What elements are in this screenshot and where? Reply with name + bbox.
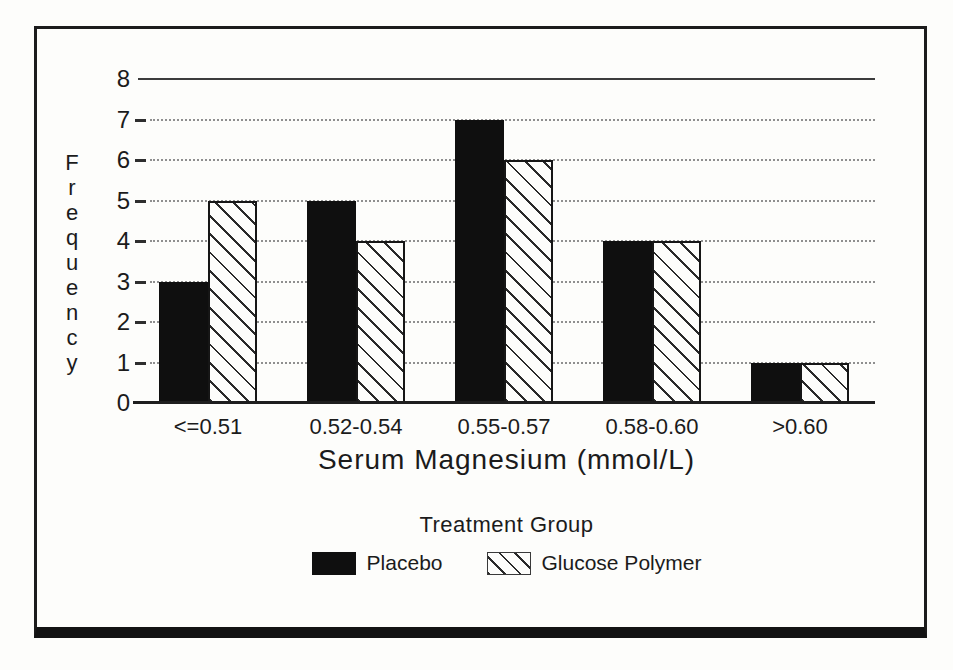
legend-swatch-hatched <box>487 552 531 575</box>
x-tick-label-2: 0.55-0.57 <box>458 414 551 440</box>
plot-area <box>138 79 875 403</box>
x-axis-title: Serum Magnesium (mmol/L) <box>138 444 875 476</box>
y-tick-label-4: 4 <box>96 227 130 255</box>
x-tick-label-3: 0.58-0.60 <box>606 414 699 440</box>
gridline-8 <box>138 78 875 80</box>
bar-placebo-4 <box>751 363 800 404</box>
legend-label: Glucose Polymer <box>542 551 702 575</box>
y-axis-title: F r e q u e n c y <box>60 150 84 375</box>
y-tick-label-8: 8 <box>96 65 130 93</box>
y-tick-3 <box>135 281 146 284</box>
y-tick-2 <box>135 321 146 324</box>
bar-glucose-polymer-2 <box>504 160 553 403</box>
legend: PlaceboGlucose Polymer <box>138 551 875 575</box>
y-tick-5 <box>135 200 146 203</box>
y-tick-7 <box>135 119 146 122</box>
legend-label: Placebo <box>367 551 443 575</box>
bar-glucose-polymer-1 <box>356 241 405 403</box>
bar-glucose-polymer-4 <box>800 363 849 404</box>
bar-placebo-3 <box>603 241 652 403</box>
y-tick-1 <box>135 362 146 365</box>
bar-glucose-polymer-0 <box>208 201 257 404</box>
gridline-7 <box>150 119 875 121</box>
x-tick-label-4: >0.60 <box>772 414 828 440</box>
legend-swatch-solid <box>312 552 356 575</box>
x-axis-line <box>133 401 875 404</box>
y-tick-label-7: 7 <box>96 106 130 134</box>
scanned-figure: F r e q u e n c y Serum Magnesium (mmol/… <box>0 0 953 670</box>
y-tick-label-0: 0 <box>96 389 130 417</box>
legend-item-placebo: Placebo <box>312 551 443 575</box>
y-tick-4 <box>135 240 146 243</box>
bar-placebo-2 <box>455 120 504 404</box>
x-tick-label-0: <=0.51 <box>174 414 243 440</box>
bar-placebo-0 <box>159 282 208 404</box>
legend-item-glucose-polymer: Glucose Polymer <box>487 551 702 575</box>
y-tick-label-2: 2 <box>96 308 130 336</box>
y-tick-label-6: 6 <box>96 146 130 174</box>
bar-glucose-polymer-3 <box>652 241 701 403</box>
bar-placebo-1 <box>307 201 356 404</box>
y-tick-label-3: 3 <box>96 268 130 296</box>
y-tick-6 <box>135 159 146 162</box>
x-tick-label-1: 0.52-0.54 <box>310 414 403 440</box>
y-tick-label-5: 5 <box>96 187 130 215</box>
legend-title: Treatment Group <box>138 512 875 538</box>
y-tick-label-1: 1 <box>96 349 130 377</box>
